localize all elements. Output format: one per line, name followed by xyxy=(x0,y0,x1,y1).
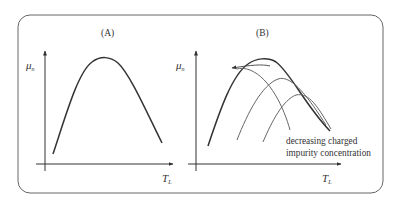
panel-a-mobility-curve xyxy=(53,58,162,154)
figure-canvas: (A) μn TL (B) μn TL decreasing charged i… xyxy=(0,0,395,201)
panel-b-envelope-curve xyxy=(208,59,330,146)
panel-b-annotation-line1: decreasing charged xyxy=(286,136,358,146)
panel-a-title: (A) xyxy=(101,28,114,39)
panel-a: (A) μn TL xyxy=(25,28,173,185)
panel-b-trend-arrow-icon xyxy=(232,65,270,68)
panel-a-y-label: μn xyxy=(25,59,35,72)
panel-b-y-label: μn xyxy=(175,59,185,72)
panel-b-x-label: TL xyxy=(322,172,332,185)
figure-frame xyxy=(18,15,383,193)
panel-a-x-label: TL xyxy=(162,172,172,185)
panel-b-annotation-line2: impurity concentration xyxy=(286,148,371,158)
panel-b-curve-3 xyxy=(263,95,331,142)
panel-b-title: (B) xyxy=(256,28,269,39)
panel-b: (B) μn TL decreasing charged impurity co… xyxy=(175,28,371,185)
